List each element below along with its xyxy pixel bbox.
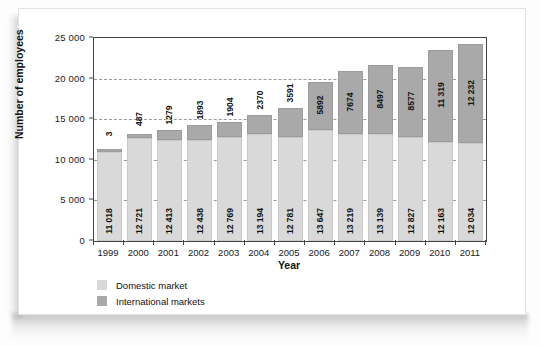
bar-value-label-domestic: 13 194	[255, 208, 265, 234]
x-tick-mark	[395, 240, 396, 245]
bar-stack[interactable]: 13 6475892	[308, 38, 333, 241]
bar-segment-domestic[interactable]: 13 139	[368, 134, 393, 241]
y-tick-mark	[89, 199, 93, 200]
bar-value-label-domestic: 12 413	[164, 208, 174, 234]
x-tick-mark	[364, 240, 365, 245]
bar-value-label-domestic: 12 781	[285, 208, 295, 234]
bar-stack[interactable]: 12 8278577	[398, 38, 423, 241]
y-tick-label: 10 000	[29, 153, 85, 164]
bar-value-label-international: 1279	[164, 105, 174, 124]
bar-segment-international[interactable]: 487	[127, 134, 152, 138]
x-tick-label: 2004	[248, 247, 269, 258]
bar-segment-international[interactable]: 2370	[247, 115, 272, 134]
x-tick-mark	[183, 240, 184, 245]
bar-value-label-domestic: 13 139	[375, 208, 385, 234]
legend-label: Domestic market	[116, 280, 187, 291]
bar-value-label-domestic: 12 721	[134, 208, 144, 234]
bar-stack[interactable]: 11 0183	[97, 38, 122, 241]
bar-value-label-international: 12 232	[466, 80, 476, 106]
x-tick-label: 1999	[97, 247, 118, 258]
bar-stack[interactable]: 12 4381893	[187, 38, 212, 241]
bar-stack[interactable]: 13 2197674	[338, 38, 363, 241]
bar-segment-international[interactable]: 1904	[217, 122, 242, 137]
bar-segment-domestic[interactable]: 12 163	[428, 142, 453, 241]
x-tick-label: 2002	[188, 247, 209, 258]
y-tick-mark	[89, 158, 93, 159]
bar-value-label-international: 2370	[255, 90, 265, 109]
y-tick-label: 25 000	[29, 32, 85, 43]
bar-value-label-domestic: 12 827	[406, 208, 416, 234]
bar-value-label-international: 487	[134, 112, 144, 126]
legend-item[interactable]: International markets	[97, 293, 205, 309]
x-tick-mark	[455, 240, 456, 245]
bar-value-label-international: 3591	[285, 84, 295, 103]
stacked-bar-chart: Number of employees 11 018312 72148712 4…	[19, 9, 527, 316]
bar-segment-international[interactable]: 3591	[278, 108, 303, 137]
x-tick-mark	[334, 240, 335, 245]
x-tick-mark	[304, 240, 305, 245]
y-tick-label: 20 000	[29, 72, 85, 83]
plot-area: 11 018312 72148712 413127912 438189312 7…	[93, 37, 487, 242]
bar-stack[interactable]: 12 721487	[127, 38, 152, 241]
bar-segment-international[interactable]: 12 232	[458, 44, 483, 143]
bar-segment-domestic[interactable]: 13 647	[308, 130, 333, 241]
bar-value-label-international: 5892	[315, 96, 325, 115]
bar-segment-domestic[interactable]: 12 413	[157, 140, 182, 241]
x-tick-mark	[274, 240, 275, 245]
bar-segment-international[interactable]: 11 319	[428, 50, 453, 142]
bar-value-label-international: 3	[104, 131, 114, 136]
bar-stack[interactable]: 12 16311 319	[428, 38, 453, 241]
x-tick-label: 2009	[399, 247, 420, 258]
bar-segment-international[interactable]: 7674	[338, 71, 363, 133]
bar-segment-domestic[interactable]: 12 781	[278, 137, 303, 241]
x-tick-mark	[93, 240, 94, 245]
legend-swatch	[97, 296, 107, 306]
bar-value-label-domestic: 13 219	[345, 208, 355, 234]
bar-stack[interactable]: 13 1398497	[368, 38, 393, 241]
bar-value-label-international: 8497	[375, 89, 385, 108]
bar-segment-international[interactable]: 3	[97, 149, 122, 152]
bar-segment-domestic[interactable]: 12 769	[217, 137, 242, 241]
bar-segment-domestic[interactable]: 12 438	[187, 140, 212, 241]
bar-segment-international[interactable]: 8497	[368, 65, 393, 134]
y-tick-mark	[89, 77, 93, 78]
bar-segment-international[interactable]: 1279	[157, 130, 182, 140]
x-tick-label: 2003	[218, 247, 239, 258]
bar-value-label-international: 1904	[225, 97, 235, 116]
bar-segment-domestic[interactable]: 13 219	[338, 134, 363, 241]
bar-value-label-domestic: 12 438	[195, 208, 205, 234]
bar-stack[interactable]: 12 7813591	[278, 38, 303, 241]
bar-stack[interactable]: 13 1942370	[247, 38, 272, 241]
x-tick-label: 2007	[339, 247, 360, 258]
y-tick-mark	[89, 37, 93, 38]
x-tick-mark	[153, 240, 154, 245]
bar-value-label-domestic: 12 163	[436, 208, 446, 234]
bar-segment-domestic[interactable]: 11 018	[97, 152, 122, 241]
bar-value-label-domestic: 12 769	[225, 208, 235, 234]
chart-legend: Domestic marketInternational markets	[97, 277, 205, 309]
x-tick-mark	[214, 240, 215, 245]
bar-segment-international[interactable]: 8577	[398, 67, 423, 137]
bar-value-label-international: 8577	[406, 92, 416, 111]
x-tick-label: 2011	[460, 247, 480, 258]
x-tick-label: 2010	[429, 247, 450, 258]
bar-stack[interactable]: 12 7691904	[217, 38, 242, 241]
bar-segment-domestic[interactable]: 12 721	[127, 138, 152, 241]
bar-value-label-international: 7674	[345, 92, 355, 111]
x-axis-title: Year	[93, 259, 485, 271]
page-background: Number of employees 11 018312 72148712 4…	[0, 0, 540, 346]
bar-segment-domestic[interactable]: 13 194	[247, 134, 272, 241]
bar-segment-domestic[interactable]: 12 827	[398, 137, 423, 241]
bar-stack[interactable]: 12 03412 232	[458, 38, 483, 241]
bar-stack[interactable]: 12 4131279	[157, 38, 182, 241]
bar-segment-international[interactable]: 1893	[187, 125, 212, 140]
chart-card: Number of employees 11 018312 72148712 4…	[18, 8, 526, 315]
legend-item[interactable]: Domestic market	[97, 277, 205, 293]
bar-value-label-domestic: 11 018	[104, 208, 114, 234]
legend-swatch	[97, 280, 107, 290]
x-tick-mark	[244, 240, 245, 245]
bar-value-label-international: 1893	[195, 100, 205, 119]
y-tick-mark	[89, 118, 93, 119]
bar-segment-international[interactable]: 5892	[308, 82, 333, 130]
bar-segment-domestic[interactable]: 12 034	[458, 143, 483, 241]
